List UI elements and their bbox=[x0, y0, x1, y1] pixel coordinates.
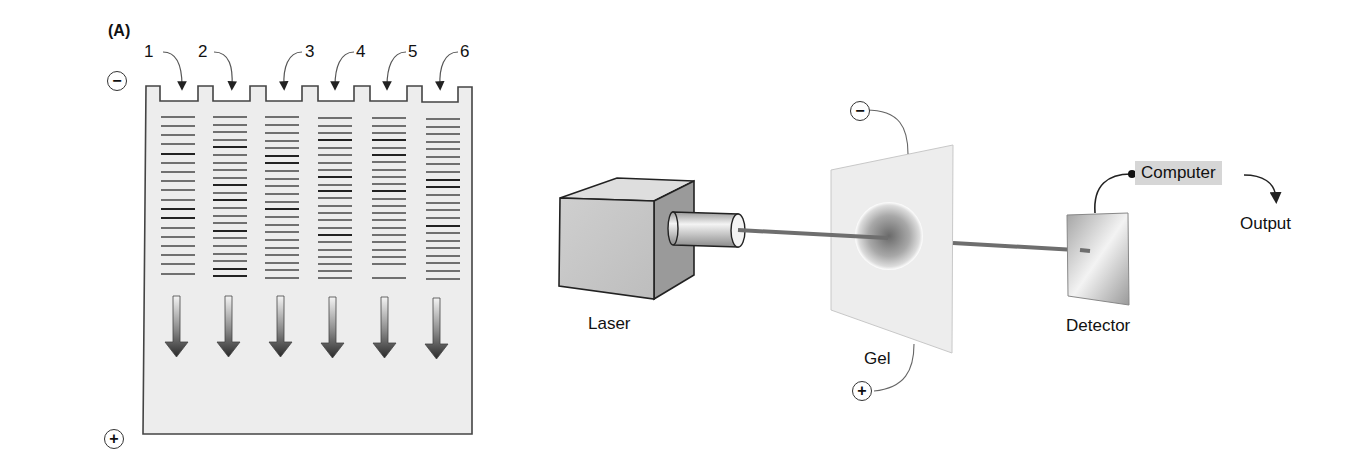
detector-device bbox=[1067, 213, 1129, 305]
output-label: Output bbox=[1240, 214, 1291, 234]
slab-gel bbox=[143, 86, 472, 434]
output-arrow bbox=[1244, 175, 1276, 198]
gel-positive-electrode-icon: + bbox=[852, 381, 872, 401]
gel-label: Gel bbox=[864, 349, 890, 369]
laser-nozzle bbox=[668, 212, 745, 247]
detector-computer-cable bbox=[1095, 174, 1131, 213]
gel-negative-wire bbox=[866, 110, 908, 154]
capillary-gel-plate bbox=[831, 145, 953, 353]
beam-at-detector bbox=[1080, 250, 1090, 251]
gel-negative-electrode-icon: − bbox=[850, 101, 870, 121]
laser-label: Laser bbox=[588, 314, 631, 334]
lane-pointer-arrows bbox=[163, 52, 458, 86]
detector-label: Detector bbox=[1066, 316, 1130, 336]
diagram-graphics bbox=[0, 0, 1361, 471]
computer-box: Computer bbox=[1135, 161, 1222, 185]
